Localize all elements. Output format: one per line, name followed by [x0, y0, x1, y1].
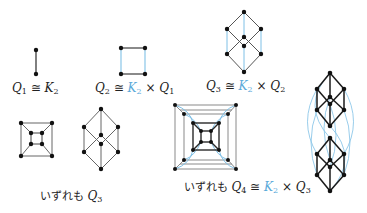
- q4-caption: いずれも Q4 ≅ K2 × Q3: [184, 178, 311, 195]
- q3-nested-square-graph: [19, 121, 54, 158]
- q4-stacked-cubes-graph: [308, 71, 354, 194]
- q4-symbol: Q: [232, 180, 242, 194]
- k2-highlight: K2: [128, 81, 142, 95]
- caption-prefix: いずれも: [184, 181, 232, 194]
- q3-symbol: Q: [206, 79, 216, 93]
- times-symbol: ×: [142, 81, 160, 95]
- q1-symbol: Q: [159, 81, 169, 95]
- q3-subscript: 3: [306, 186, 311, 195]
- q3-symbol: Q: [296, 180, 306, 194]
- k2-highlight: K2: [239, 79, 253, 93]
- k-symbol: K: [239, 79, 248, 93]
- q3-subscript: 3: [97, 195, 102, 204]
- q3-product-graph: [225, 10, 263, 74]
- times-symbol: ×: [253, 79, 271, 93]
- isomorphic-symbol: ≅: [246, 180, 264, 194]
- k-symbol: K: [264, 180, 273, 194]
- k-symbol: K: [45, 81, 54, 95]
- q2-symbol: Q: [270, 79, 280, 93]
- q3-hexagon-graph: [82, 107, 120, 171]
- q2-symbol: Q: [95, 81, 105, 95]
- q2-graph: [119, 46, 147, 76]
- q2-label: Q2 ≅ K2 × Q1: [95, 81, 174, 96]
- q1-label: Q1 ≅ K2: [12, 81, 59, 96]
- k-symbol: K: [128, 81, 137, 95]
- k2-highlight: K2: [264, 180, 278, 194]
- q2-subscript: 2: [280, 85, 285, 94]
- isomorphic-symbol: ≅: [221, 79, 239, 93]
- caption-prefix: いずれも: [40, 190, 88, 203]
- isomorphic-symbol: ≅: [110, 81, 128, 95]
- q4-nested-square-graph: [173, 103, 238, 171]
- k-subscript: 2: [54, 87, 59, 96]
- q1-symbol: Q: [12, 81, 22, 95]
- q3-symbol: Q: [88, 189, 98, 203]
- q3-label: Q3 ≅ K2 × Q2: [206, 79, 285, 94]
- q1-subscript: 1: [169, 87, 174, 96]
- q1-graph: [34, 48, 38, 76]
- isomorphic-symbol: ≅: [27, 81, 45, 95]
- times-symbol: ×: [278, 180, 296, 194]
- q3-caption: いずれも Q3: [40, 187, 102, 204]
